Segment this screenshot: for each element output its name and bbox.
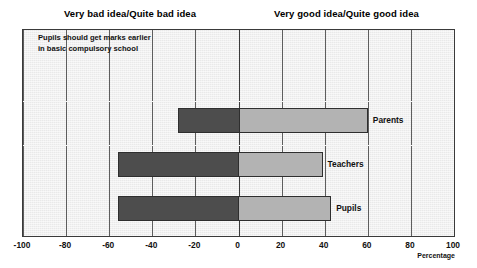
header-label-negative: Very bad idea/Quite bad idea <box>22 8 238 19</box>
category-separator <box>23 101 454 102</box>
x-tick-20: 20 <box>276 240 285 250</box>
x-tick--60: -60 <box>102 240 114 250</box>
plot-area <box>22 29 455 237</box>
bar-segment-positive <box>238 153 321 176</box>
x-tick-0: 0 <box>235 240 240 250</box>
bar-teachers <box>118 152 323 177</box>
gridline--100 <box>23 30 24 236</box>
bar-segment-negative <box>179 109 239 132</box>
bar-segment-positive <box>238 197 330 220</box>
x-tick-80: 80 <box>405 240 414 250</box>
bar-segment-negative <box>119 153 239 176</box>
x-tick-60: 60 <box>362 240 371 250</box>
gridline-60 <box>368 30 369 236</box>
gridline-80 <box>411 30 412 236</box>
x-tick-100: 100 <box>446 240 460 250</box>
gridline--80 <box>66 30 67 236</box>
x-tick--80: -80 <box>59 240 71 250</box>
bar-pupils <box>118 196 331 221</box>
x-tick--40: -40 <box>145 240 157 250</box>
bar-parents <box>178 108 368 133</box>
bar-label-teachers: Teachers <box>328 159 364 169</box>
bar-label-parents: Parents <box>373 115 404 125</box>
gridline--60 <box>109 30 110 236</box>
bar-segment-positive <box>239 109 367 132</box>
x-tick-40: 40 <box>319 240 328 250</box>
question-text: Pupils should get marks earlier in basic… <box>38 32 151 54</box>
x-tick--20: -20 <box>188 240 200 250</box>
header-label-positive: Very good idea/Quite good idea <box>238 8 455 19</box>
diverging-bar-chart: Very bad idea/Quite bad idea Very good i… <box>0 0 477 268</box>
x-tick--100: -100 <box>14 240 31 250</box>
x-axis-title: Percentage <box>417 252 455 259</box>
bar-label-pupils: Pupils <box>336 203 361 213</box>
bar-segment-negative <box>119 197 239 220</box>
category-separator <box>23 145 454 146</box>
gridline-100 <box>454 30 455 236</box>
